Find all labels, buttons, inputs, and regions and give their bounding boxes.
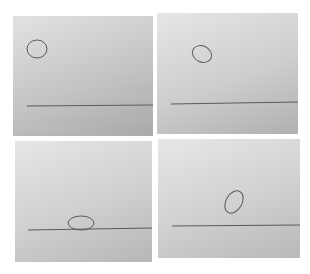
panel-drawing: [13, 16, 153, 136]
photo-panel-top-right: [157, 13, 298, 134]
panel-drawing: [157, 13, 298, 134]
ellipse-shape: [190, 43, 215, 66]
photo-panel-bottom-left: [15, 141, 152, 262]
panel-drawing: [15, 141, 152, 262]
photo-panel-top-left: [13, 16, 153, 136]
ellipse-shape: [221, 188, 247, 217]
panel-drawing: [158, 139, 300, 258]
horizontal-line: [172, 225, 300, 226]
ellipse-shape: [27, 40, 47, 58]
photo-panel-bottom-right: [158, 139, 300, 258]
horizontal-line: [27, 105, 153, 106]
ellipse-shape: [68, 216, 94, 230]
horizontal-line: [171, 102, 298, 104]
